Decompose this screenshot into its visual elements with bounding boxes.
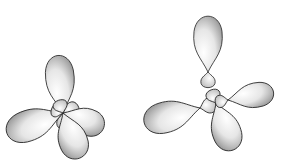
separated-orbitals-figure xyxy=(140,16,275,155)
separate-orbital-0 xyxy=(194,16,223,87)
combined-orbitals-figure xyxy=(2,54,109,163)
large-lobe xyxy=(140,93,204,138)
orbital-diagram xyxy=(0,0,289,168)
small-lobe xyxy=(214,94,229,108)
large-lobe xyxy=(194,16,223,72)
small-lobe xyxy=(201,72,215,88)
large-lobe xyxy=(226,80,276,112)
